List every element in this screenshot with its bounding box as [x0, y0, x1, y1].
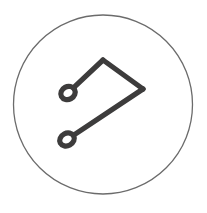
icon-canvas: Flag Path Icon	[0, 0, 207, 213]
flag-glyph-group	[57, 60, 143, 149]
upper-loop-node	[58, 84, 77, 102]
upper-node-to-apex-stroke	[73, 60, 103, 88]
lower-loop-node	[57, 130, 76, 148]
flag-path-icon-svg: Flag Path Icon	[0, 0, 207, 213]
right-vertex-to-lower-node-stroke	[73, 89, 143, 135]
apex-to-right-vertex-stroke	[103, 60, 143, 89]
circle-frame	[14, 15, 193, 194]
